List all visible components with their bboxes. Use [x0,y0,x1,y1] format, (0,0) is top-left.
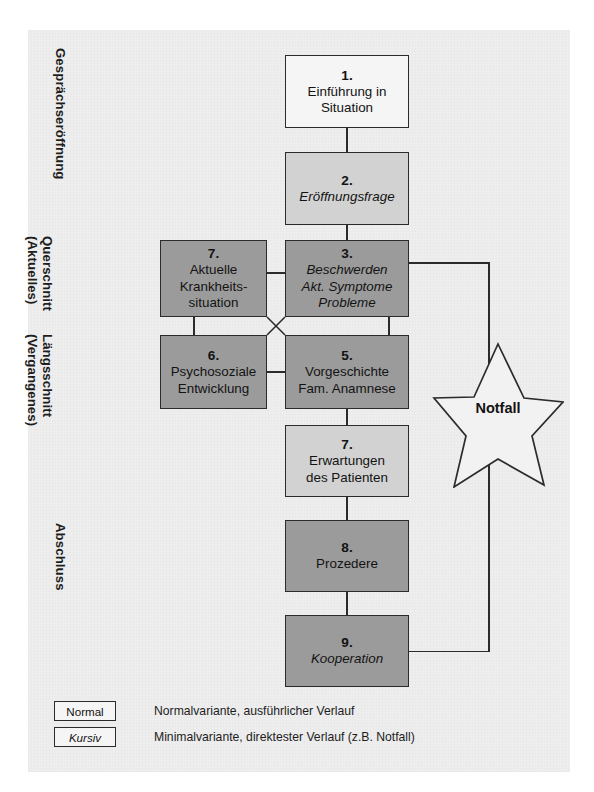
node-line: Akt. Symptome [302,279,393,296]
connector-n1-n2 [346,128,348,152]
node-6-psychosoziale-entwicklung[interactable]: 6. Psychosoziale Entwicklung [160,335,267,409]
node-number: 9. [341,634,352,651]
node-line: Psychosoziale [171,364,257,381]
node-line: Krankheits- [180,279,248,296]
notfall-star[interactable]: Notfall [432,340,564,488]
node-number: 7. [341,436,352,453]
legend-text-kursiv: Minimalvariante, direktester Verlauf (z.… [154,730,415,744]
node-line: Eröffnungsfrage [299,189,394,206]
node-number: 6. [208,347,219,364]
node-2-eroeffnungsfrage[interactable]: 2. Eröffnungsfrage [285,152,409,225]
connector-n7a-n6 [193,317,195,335]
node-7a-aktuelle-krankheitssituation[interactable]: 7. Aktuelle Krankheits- situation [160,240,267,317]
node-7b-erwartungen[interactable]: 7. Erwartungen des Patienten [285,425,409,497]
connector-n6-n5 [266,371,286,373]
node-number: 7. [208,245,219,262]
node-number: 8. [341,539,352,556]
diagonal-n3-to-n6 [267,317,285,335]
connector-n3-n5 [388,317,390,335]
node-line: Aktuelle [190,262,238,279]
flowchart-stage: Gesprächseröffnung Querschnitt (Aktuelle… [0,0,594,792]
node-line: Fam. Anamnese [298,381,396,398]
node-5-vorgeschichte[interactable]: 5. Vorgeschichte Fam. Anamnese [285,335,409,409]
node-3-beschwerden[interactable]: 3. Beschwerden Akt. Symptome Probleme [285,240,409,317]
node-line: situation [189,295,239,312]
node-line: Erwartungen [309,453,385,470]
node-line: Kooperation [311,651,383,668]
legend-row: Kursiv Minimalvariante, direktester Verl… [54,726,474,748]
node-8-prozedere[interactable]: 8. Prozedere [285,520,409,592]
node-1-einfuehrung[interactable]: 1. Einführung in Situation [285,55,409,128]
bypass-top-segment [409,262,490,264]
node-line: Situation [321,100,373,117]
stage-label-querschnitt: Querschnitt (Aktuelles) [25,236,55,311]
node-line: Prozedere [316,556,378,573]
node-9-kooperation[interactable]: 9. Kooperation [285,615,409,687]
stage-label-laengsschnitt: Längsschnitt (Vergangenes) [25,334,55,426]
node-line: Probleme [318,295,375,312]
legend: Normal Normalvariante, ausführlicher Ver… [54,700,474,752]
node-line: Beschwerden [306,262,387,279]
node-number: 1. [341,67,352,84]
node-line: Entwicklung [178,381,249,398]
node-number: 2. [341,172,352,189]
connector-n5-n7b [346,409,348,425]
connector-n2-n3 [346,225,348,240]
node-number: 3. [341,245,352,262]
node-number: 5. [341,347,352,364]
node-line: Einführung in [308,84,387,101]
stage-label-gespraechseroeffnung: Gesprächseröffnung [53,48,68,180]
notfall-star-label: Notfall [432,400,564,416]
node-line: Vorgeschichte [305,364,389,381]
connector-n8-n9 [346,592,348,615]
legend-row: Normal Normalvariante, ausführlicher Ver… [54,700,474,722]
legend-chip-kursiv: Kursiv [54,727,116,747]
diagonal-n7a-to-n5 [267,317,285,335]
bypass-bottom-segment [409,651,490,653]
connector-n7b-n8 [346,497,348,520]
node-line: des Patienten [306,470,388,487]
connector-n7a-n3 [266,272,286,274]
legend-text-normal: Normalvariante, ausführlicher Verlauf [154,704,355,718]
stage-label-abschluss: Abschluss [53,523,68,591]
legend-chip-normal: Normal [54,701,116,721]
